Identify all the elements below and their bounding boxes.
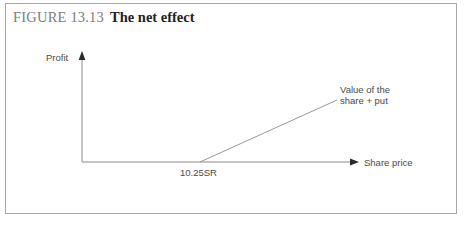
y-axis-label: Profit	[46, 52, 68, 63]
x-axis-arrowhead-icon	[350, 159, 359, 166]
y-axis-arrowhead-icon	[79, 51, 86, 60]
x-axis-label: Share price	[364, 157, 413, 168]
curve-annotation-line-1: Value of the	[340, 84, 390, 95]
figure-container: FIGURE 13.13The net effect Profit Share …	[0, 0, 467, 225]
curve-annotation: Value of the share + put	[340, 84, 390, 106]
plot-canvas	[0, 0, 467, 225]
x-axis-tick-label: 10.25SR	[180, 167, 217, 178]
curve-annotation-line-2: share + put	[340, 95, 390, 106]
payoff-line	[200, 100, 337, 162]
